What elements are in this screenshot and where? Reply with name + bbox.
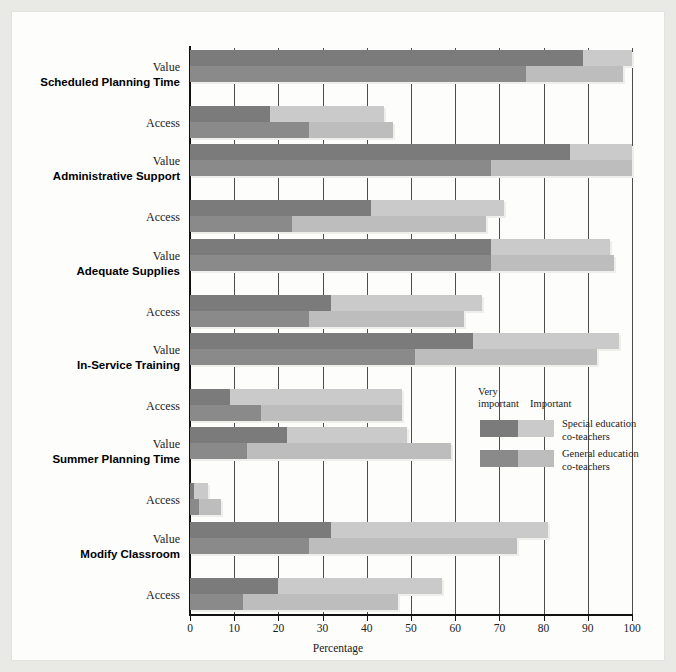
row-label-value: Value (30, 154, 180, 169)
bar-segment-important (287, 427, 406, 443)
bar (190, 50, 632, 66)
x-tick-label: 60 (449, 622, 461, 634)
gridline (632, 48, 633, 614)
bar-segment-important (309, 311, 464, 327)
legend-label-general-education: General education co-teachers (562, 448, 639, 473)
bar-segment-very-important (190, 443, 247, 459)
bar (190, 427, 407, 443)
bar-segment-important (415, 349, 596, 365)
row-label-access: Access (30, 493, 180, 508)
bar (190, 66, 623, 82)
row-label-value: Value (30, 343, 180, 358)
bar-segment-very-important (190, 522, 331, 538)
bar (190, 538, 517, 554)
bar-segment-very-important (190, 200, 371, 216)
bar-segment-important (309, 122, 393, 138)
group-label: In-Service Training (15, 359, 180, 371)
bar-segment-very-important (190, 144, 570, 160)
bar (190, 106, 384, 122)
bar (190, 311, 464, 327)
x-tick-label: 70 (494, 622, 506, 634)
bar-segment-very-important (190, 106, 270, 122)
row-label-value: Value (30, 437, 180, 452)
x-tick-label: 100 (623, 622, 640, 634)
bar (190, 443, 451, 459)
legend-label-special-education: Special education co-teachers (562, 418, 636, 443)
legend-swatch-important (518, 420, 554, 437)
bar-segment-very-important (190, 160, 491, 176)
row-label-value: Value (30, 60, 180, 75)
x-tick (588, 616, 589, 621)
row-label-access: Access (30, 116, 180, 131)
legend-segment-headers: Very important Important (478, 386, 658, 416)
legend-very-important-label: Very important (478, 386, 526, 410)
bar-segment-very-important (190, 499, 199, 515)
bar-segment-very-important (190, 333, 473, 349)
bar-segment-very-important (190, 66, 526, 82)
bar-segment-important (570, 144, 632, 160)
plot-area (190, 48, 632, 614)
x-tick (411, 616, 412, 621)
legend-swatch-very-important (480, 450, 518, 467)
bar-segment-important (199, 499, 221, 515)
x-tick (544, 616, 545, 621)
bar-segment-important (491, 160, 632, 176)
bar-segment-important (247, 443, 450, 459)
bar-segment-important (583, 50, 632, 66)
group-label: Adequate Supplies (15, 265, 180, 277)
row-label-value: Value (30, 249, 180, 264)
row-label-access: Access (30, 588, 180, 603)
x-tick-label: 0 (187, 622, 193, 634)
bar (190, 499, 221, 515)
bar-segment-important (278, 578, 442, 594)
x-tick (190, 616, 191, 621)
bar-segment-important (243, 594, 398, 610)
bar-segment-very-important (190, 311, 309, 327)
bar (190, 216, 486, 232)
row-label-access: Access (30, 305, 180, 320)
bar-segment-very-important (190, 216, 292, 232)
legend-row-special-education: Special education co-teachers (478, 418, 658, 446)
legend-swatch-important (518, 450, 554, 467)
bar-segment-important (261, 405, 402, 421)
bar (190, 144, 632, 160)
group-label: Summer Planning Time (15, 453, 180, 465)
legend-swatch-general-education (480, 450, 554, 467)
bar-segment-very-important (190, 349, 415, 365)
bar-segment-very-important (190, 594, 243, 610)
row-label-access: Access (30, 210, 180, 225)
x-tick (455, 616, 456, 621)
bar-segment-important (473, 333, 619, 349)
bar (190, 255, 614, 271)
bar-segment-very-important (190, 578, 278, 594)
bar (190, 522, 548, 538)
x-tick-label: 20 (273, 622, 285, 634)
bar (190, 160, 632, 176)
bar (190, 239, 610, 255)
x-tick-label: 30 (317, 622, 329, 634)
row-label-value: Value (30, 532, 180, 547)
bar (190, 405, 402, 421)
x-tick (632, 616, 633, 621)
x-tick-label: 90 (582, 622, 594, 634)
bar-segment-important (270, 106, 385, 122)
bar (190, 389, 402, 405)
bar (190, 349, 597, 365)
bar-segment-very-important (190, 122, 309, 138)
bar (190, 594, 398, 610)
bar (190, 483, 208, 499)
bar-segment-important (331, 522, 548, 538)
x-tick (499, 616, 500, 621)
group-label: Modify Classroom (15, 548, 180, 560)
group-label: Administrative Support (15, 170, 180, 182)
gridline (588, 48, 589, 614)
legend-swatch-special-education (480, 420, 554, 437)
bar-segment-important (194, 483, 207, 499)
chart-card: ValueAccessScheduled Planning TimeValueA… (12, 12, 664, 660)
x-tick (367, 616, 368, 621)
x-axis-title: Percentage (12, 642, 664, 654)
x-tick (278, 616, 279, 621)
bar-segment-very-important (190, 389, 230, 405)
bar-segment-very-important (190, 255, 491, 271)
bar-segment-very-important (190, 405, 261, 421)
